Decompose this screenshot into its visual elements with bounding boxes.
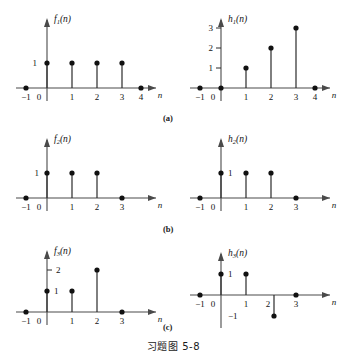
y-tick-label-1: 1 xyxy=(228,269,233,279)
y-axis-arrow xyxy=(218,18,224,27)
signal-title-h2: h2(n) xyxy=(228,134,247,145)
zero-dot-n3 xyxy=(293,292,298,297)
y-tick-label-3: 3 xyxy=(209,23,214,33)
stem-dot-n2 xyxy=(268,170,273,175)
x-tick-label-0: 0 xyxy=(37,316,42,326)
signal-title-f3: f3(n) xyxy=(54,246,71,257)
plot-h2-svg: h2(n) 1 −1 0 1 2 3 n xyxy=(182,126,347,221)
stem-dot-n2 xyxy=(94,60,99,65)
x-tick-label-4: 4 xyxy=(313,92,318,102)
stem-dot-n1 xyxy=(243,65,248,70)
plot-f1: f1(n) 1 −1 0 1 2 3 4 n xyxy=(8,6,173,106)
x-tick-label-3: 3 xyxy=(120,202,125,212)
panel-label-a: (a) xyxy=(163,113,173,123)
zero-dot-nm1 xyxy=(23,195,28,200)
x-tick-label-2: 2 xyxy=(95,316,100,326)
zero-dot-nm1 xyxy=(197,292,202,297)
y-tick-label-1: 1 xyxy=(228,168,233,178)
x-axis-arrow xyxy=(322,195,330,201)
plot-f2-svg: f2(n) 1 −1 0 1 2 3 n xyxy=(8,126,173,221)
signal-title-f2: f2(n) xyxy=(54,134,71,145)
x-axis-arrow xyxy=(148,85,156,91)
x-tick-label-3: 3 xyxy=(294,299,299,309)
stem-dot-n1 xyxy=(243,271,248,276)
stem-dot-n1 xyxy=(69,170,74,175)
x-axis-name: n xyxy=(158,90,163,100)
x-tick-label-0: 0 xyxy=(37,202,42,212)
stem-dot-n1 xyxy=(69,60,74,65)
y-axis-arrow xyxy=(44,138,50,147)
x-tick-label-1: 1 xyxy=(244,202,249,212)
plot-h3: h3(n) 1 −1 −1 0 1 2 3 n xyxy=(182,240,347,335)
x-tick-label-1: 1 xyxy=(244,92,249,102)
x-tick-label-2: 2 xyxy=(95,202,100,212)
x-tick-label-0: 0 xyxy=(37,92,42,102)
x-tick-label-0: 0 xyxy=(211,92,216,102)
y-tick-label-2: 2 xyxy=(56,265,61,275)
x-tick-label-4: 4 xyxy=(139,92,144,102)
y-axis-arrow xyxy=(218,252,224,261)
x-tick-label-0: 0 xyxy=(211,299,216,309)
plot-f3-svg: f3(n) 2 1 −1 0 1 2 3 n xyxy=(8,240,173,335)
y-axis-arrow xyxy=(44,250,50,259)
signal-title-f1: f1(n) xyxy=(54,14,71,25)
y-tick-label-2: 2 xyxy=(209,43,214,53)
y-tick-label-1: 1 xyxy=(33,58,38,68)
stem-dot-n2 xyxy=(271,313,276,318)
plot-f3: f3(n) 2 1 −1 0 1 2 3 n xyxy=(8,240,173,335)
x-tick-label-3: 3 xyxy=(294,92,299,102)
zero-dot-n3 xyxy=(293,195,298,200)
panel-label-b: (b) xyxy=(163,224,173,234)
x-tick-label-m1: −1 xyxy=(195,202,205,212)
x-tick-label-m1: −1 xyxy=(21,316,31,326)
x-tick-label-0: 0 xyxy=(211,202,216,212)
stem-dot-n3 xyxy=(293,25,298,30)
stem-dot-n0 xyxy=(218,170,223,175)
x-axis-name: n xyxy=(158,314,163,324)
x-tick-label-m1: −1 xyxy=(21,92,31,102)
plot-h2: h2(n) 1 −1 0 1 2 3 n xyxy=(182,126,347,221)
y-tick-label-m1: −1 xyxy=(228,311,238,321)
y-tick-label-1: 1 xyxy=(209,63,214,73)
plot-f1-svg: f1(n) 1 −1 0 1 2 3 4 n xyxy=(8,6,173,106)
y-axis-arrow xyxy=(218,138,224,147)
stem-dot-n1 xyxy=(243,170,248,175)
x-axis-arrow xyxy=(148,309,156,315)
stem-dot-n0 xyxy=(44,60,49,65)
panel-label-c: (c) xyxy=(163,322,172,332)
stem-dot-n0 xyxy=(44,170,49,175)
x-tick-label-m1: −1 xyxy=(195,299,205,309)
stem-dot-n2 xyxy=(268,45,273,50)
y-axis-arrow xyxy=(44,18,50,27)
x-axis-arrow xyxy=(148,195,156,201)
zero-dot-n4 xyxy=(138,85,143,90)
figure-caption: 习题图 5-8 xyxy=(0,338,347,353)
stem-dot-n0 xyxy=(44,288,49,293)
x-tick-label-1: 1 xyxy=(70,92,75,102)
stem-dot-n2 xyxy=(94,267,99,272)
x-tick-label-2: 2 xyxy=(266,299,271,309)
zero-dot-n4 xyxy=(312,85,317,90)
x-axis-arrow xyxy=(322,292,330,298)
plot-f2: f2(n) 1 −1 0 1 2 3 n xyxy=(8,126,173,221)
zero-dot-n3 xyxy=(119,195,124,200)
zero-dot-n3 xyxy=(119,309,124,314)
x-tick-label-m1: −1 xyxy=(195,92,205,102)
stem-dot-n1 xyxy=(69,288,74,293)
x-tick-label-3: 3 xyxy=(120,92,125,102)
x-axis-arrow xyxy=(322,85,330,91)
x-tick-label-1: 1 xyxy=(244,299,249,309)
stem-dot-n0 xyxy=(218,271,223,276)
x-tick-label-m1: −1 xyxy=(21,202,31,212)
zero-dot-n0 xyxy=(218,85,223,90)
x-tick-label-3: 3 xyxy=(120,316,125,326)
plot-h3-svg: h3(n) 1 −1 −1 0 1 2 3 n xyxy=(182,240,347,335)
x-axis-name: n xyxy=(332,200,337,210)
y-tick-label-1: 1 xyxy=(54,286,59,296)
zero-dot-nm1 xyxy=(23,85,28,90)
signal-title-h3: h3(n) xyxy=(228,248,247,259)
x-tick-label-2: 2 xyxy=(269,202,274,212)
zero-dot-nm1 xyxy=(197,85,202,90)
plot-h1-svg: h1(n) 1 2 3 −1 0 1 2 3 4 n xyxy=(182,6,347,106)
zero-dot-nm1 xyxy=(23,309,28,314)
